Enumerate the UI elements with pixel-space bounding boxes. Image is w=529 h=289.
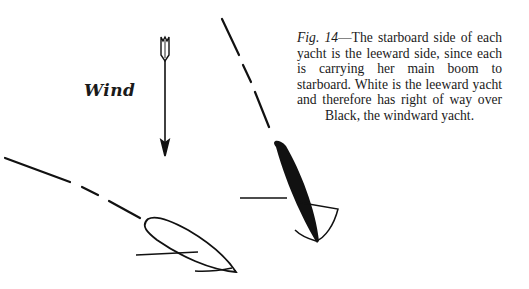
wind-label: Wind — [84, 80, 136, 100]
figure-caption: Fig. 14—The starboard side of each yacht… — [297, 30, 502, 124]
black-yacht-course-line — [222, 19, 269, 127]
wind-arrow-icon — [161, 37, 169, 156]
black-yacht — [240, 141, 338, 243]
white-yacht-course-line — [5, 158, 140, 218]
white-yacht — [136, 218, 236, 272]
figure-reference: Fig. 14 — [297, 30, 338, 45]
caption-dash: — — [338, 30, 352, 45]
